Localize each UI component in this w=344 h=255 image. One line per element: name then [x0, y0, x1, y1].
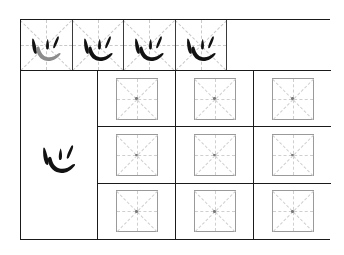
mizige-box	[272, 134, 314, 176]
guide-center-dot	[135, 154, 138, 157]
guide-center-dot	[291, 154, 294, 157]
mizige-box	[194, 190, 236, 232]
character-glyph-xin-step-1	[21, 20, 72, 70]
character-practice-worksheet	[20, 19, 330, 240]
practice-cell-r1c3[interactable]	[254, 71, 331, 126]
practice-cell-r3c2[interactable]	[176, 184, 254, 239]
practice-cell-r2c3[interactable]	[254, 127, 331, 182]
practice-cell-r2c1[interactable]	[98, 127, 176, 182]
stroke-order-row	[21, 20, 331, 71]
mizige-box	[116, 134, 158, 176]
practice-cell-r2c2[interactable]	[176, 127, 254, 182]
stroke-order-cell-1[interactable]	[21, 20, 73, 70]
guide-center-dot	[213, 154, 216, 157]
practice-cell-r1c2[interactable]	[176, 71, 254, 126]
mizige-box	[116, 78, 158, 120]
stroke-order-cell-4[interactable]	[176, 20, 228, 70]
stroke-order-cell-3[interactable]	[124, 20, 176, 70]
mizige-box	[272, 78, 314, 120]
practice-cell-r3c3[interactable]	[254, 184, 331, 239]
mizige-box	[194, 134, 236, 176]
guide-center-dot	[291, 210, 294, 213]
model-character-panel	[21, 71, 98, 239]
mizige-box	[194, 78, 236, 120]
practice-row-1	[98, 71, 331, 127]
guide-center-dot	[135, 210, 138, 213]
practice-cell-r3c1[interactable]	[98, 184, 176, 239]
practice-grid	[98, 71, 331, 239]
stroke-order-cell-2[interactable]	[73, 20, 125, 70]
practice-row-2	[98, 127, 331, 183]
stroke-row-empty-area	[227, 20, 331, 70]
mizige-box	[116, 190, 158, 232]
guide-center-dot	[213, 97, 216, 100]
worksheet-body	[21, 71, 331, 239]
guide-center-dot	[213, 210, 216, 213]
practice-cell-r1c1[interactable]	[98, 71, 176, 126]
guide-center-dot	[291, 97, 294, 100]
character-glyph-xin-step-3	[124, 20, 175, 70]
mizige-box	[272, 190, 314, 232]
practice-row-3	[98, 184, 331, 239]
model-character-glyph-xin	[31, 127, 87, 183]
guide-center-dot	[135, 97, 138, 100]
character-glyph-xin-step-2	[73, 20, 124, 70]
character-glyph-xin-step-4	[176, 20, 227, 70]
